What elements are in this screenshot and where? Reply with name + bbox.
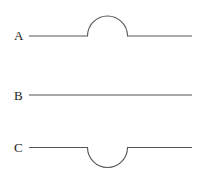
line-c-bump-down xyxy=(29,148,192,168)
label-c: C xyxy=(14,140,23,155)
line-a-group: A xyxy=(14,16,192,43)
label-b: B xyxy=(14,88,23,103)
line-c-group: C xyxy=(14,140,192,168)
line-b-group: B xyxy=(14,88,192,103)
label-a: A xyxy=(14,28,24,43)
line-a-bump-up xyxy=(29,16,192,36)
line-diagram: A B C xyxy=(0,0,211,188)
